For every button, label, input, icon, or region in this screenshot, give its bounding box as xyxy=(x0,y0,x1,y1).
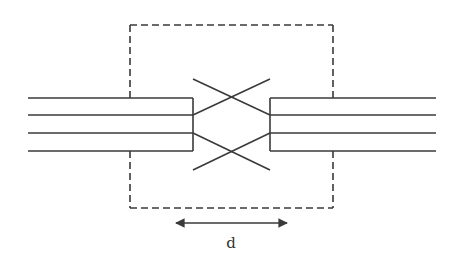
waveguide-crossing-diagram: d xyxy=(0,0,458,257)
right-waveguide-bundle xyxy=(270,98,436,151)
crossing-region xyxy=(193,79,270,170)
left-waveguide-bundle xyxy=(28,98,193,151)
distance-label: d xyxy=(226,234,236,252)
dashed-boundary-box xyxy=(130,25,333,208)
